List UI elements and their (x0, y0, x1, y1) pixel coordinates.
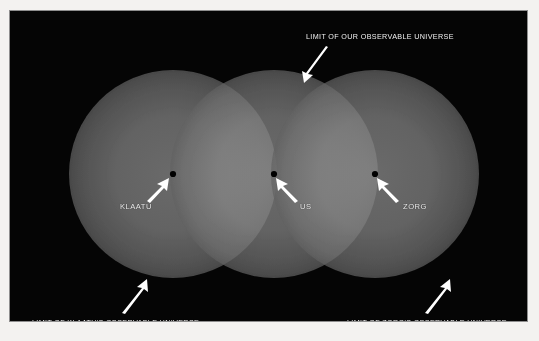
arrow-zorg-limit-icon (425, 279, 451, 314)
label-limit-zorg-observable-universe: LIMIT OF ZORG'S OBSERVABLE UNIVERSE (347, 319, 507, 322)
observer-dot-zorg (372, 171, 378, 177)
diagram-stage: LIMIT OF OUR OBSERVABLE UNIVERSE LIMIT O… (10, 11, 527, 321)
label-observer-zorg: ZORG (403, 203, 427, 211)
observer-dot-us (271, 171, 277, 177)
observer-dot-klaatu (170, 171, 176, 177)
arrow-top-limit-icon (302, 46, 328, 83)
arrow-klaatu-limit-icon (122, 279, 148, 314)
arrow-zorg-point-icon (377, 178, 399, 203)
arrow-us-point-icon (276, 178, 298, 203)
diagram-panel: LIMIT OF OUR OBSERVABLE UNIVERSE LIMIT O… (9, 10, 528, 322)
figure-root: LIMIT OF OUR OBSERVABLE UNIVERSE LIMIT O… (0, 0, 539, 341)
label-observer-klaatu: KLAATU (120, 203, 152, 211)
annotation-arrows (10, 11, 527, 321)
label-limit-our-observable-universe: LIMIT OF OUR OBSERVABLE UNIVERSE (306, 33, 454, 40)
label-limit-klaatu-observable-universe: LIMIT OF KLAATU'S OBSERVABLE UNIVERSE (32, 319, 199, 322)
arrow-klaatu-point-icon (147, 178, 169, 203)
label-observer-us: US (300, 203, 312, 211)
